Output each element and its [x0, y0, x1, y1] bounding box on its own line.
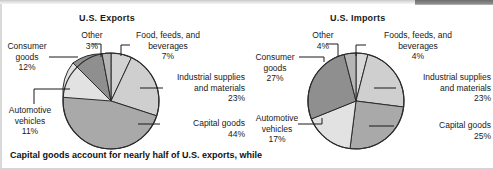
label-pct: 23% — [150, 93, 245, 104]
label-text: beverages — [118, 41, 218, 52]
label-exports-industrial: Industrial supplies and materials 23% — [150, 72, 245, 104]
label-exports-automotive: Automotive vehicles 11% — [1, 105, 59, 137]
label-exports-food: Food, feeds, and beverages 7% — [118, 30, 218, 62]
label-text: Consumer — [250, 52, 300, 63]
label-pct: 23% — [396, 93, 491, 104]
label-text: beverages — [366, 41, 470, 52]
label-imports-industrial: Industrial supplies and materials 23% — [396, 72, 491, 104]
label-text: Other — [73, 30, 111, 41]
label-pct: 7% — [118, 51, 218, 62]
label-text: Industrial supplies — [150, 72, 245, 83]
figure-container: U.S. Exports — [0, 0, 493, 170]
label-text: Automotive — [1, 105, 59, 116]
label-imports-consumer: Consumer goods 27% — [250, 52, 300, 84]
label-imports-capital: Capital goods 25% — [396, 120, 491, 141]
label-text: Capital goods — [396, 120, 491, 131]
label-text: Foods, feeds, and — [366, 30, 470, 41]
label-pct: 4% — [366, 51, 470, 62]
label-exports-capital: Capital goods 44% — [150, 118, 245, 139]
label-text: Industrial supplies — [396, 72, 491, 83]
label-pct: 3% — [73, 41, 111, 52]
label-pct: 12% — [3, 62, 51, 73]
label-text: Consumer — [3, 41, 51, 52]
label-text: Capital goods — [150, 118, 245, 129]
label-pct: 27% — [250, 73, 300, 84]
label-exports-consumer: Consumer goods 12% — [3, 41, 51, 73]
label-text: goods — [250, 63, 300, 74]
label-pct: 11% — [1, 126, 59, 137]
label-text: Food, feeds, and — [118, 30, 218, 41]
label-pct: 17% — [248, 134, 306, 145]
label-text: goods — [3, 52, 51, 63]
label-pct: 4% — [304, 41, 342, 52]
label-imports-other: Other 4% — [304, 30, 342, 51]
label-text: vehicles — [1, 116, 59, 127]
label-text: and materials — [150, 83, 245, 94]
label-text: Automotive — [248, 113, 306, 124]
figure-caption: Capital goods account for nearly half of… — [10, 150, 262, 160]
label-exports-other: Other 3% — [73, 30, 111, 51]
label-pct: 25% — [396, 131, 491, 142]
label-text: Other — [304, 30, 342, 41]
label-pct: 44% — [150, 129, 245, 140]
label-imports-food: Foods, feeds, and beverages 4% — [366, 30, 470, 62]
label-text: vehicles — [248, 124, 306, 135]
label-imports-automotive: Automotive vehicles 17% — [248, 113, 306, 145]
label-text: and materials — [396, 83, 491, 94]
